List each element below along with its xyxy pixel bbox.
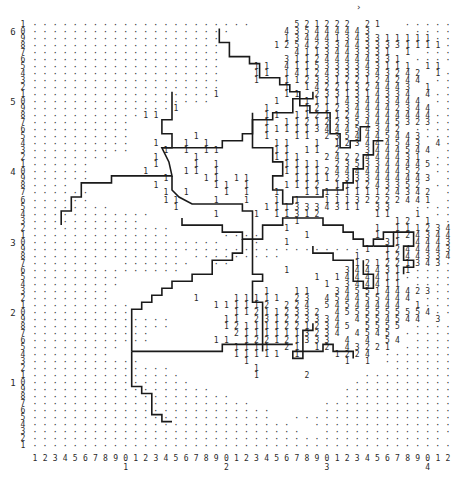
region-boundaries bbox=[0, 0, 457, 498]
boundary-line bbox=[330, 120, 370, 148]
boundary-line bbox=[253, 113, 293, 204]
boundary-line bbox=[293, 323, 353, 358]
corner-mark: › bbox=[356, 2, 361, 12]
boundary-line bbox=[313, 246, 374, 288]
boundary-line bbox=[162, 92, 313, 148]
boundary-line bbox=[394, 232, 414, 274]
boundary-line bbox=[373, 232, 393, 246]
boundary-line bbox=[61, 92, 172, 225]
boundary-line bbox=[293, 141, 384, 204]
boundary-line bbox=[132, 344, 293, 351]
boundary-line bbox=[172, 176, 253, 218]
boundary-line bbox=[253, 218, 263, 351]
boundary-line bbox=[182, 218, 373, 246]
boundary-line bbox=[132, 351, 172, 421]
boundary-line bbox=[219, 29, 330, 120]
printout-map: ······················52122221··········… bbox=[0, 0, 457, 498]
boundary-line bbox=[132, 239, 243, 351]
